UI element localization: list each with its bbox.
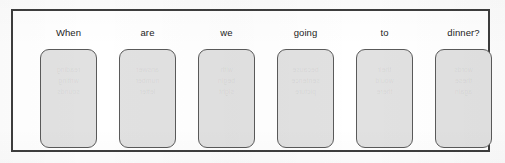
sentence-card-slot-2: are answer number letter [119, 25, 176, 149]
card-ghost-text-2: answer number letter [122, 64, 173, 141]
worksheet-frame: When reading writing sounds are answer n… [11, 9, 490, 152]
sentence-card-6[interactable]: words these again [435, 49, 492, 148]
sentence-card-1[interactable]: reading writing sounds [40, 49, 97, 148]
sentence-card-slot-3: we with begin sight [198, 25, 255, 149]
card-ghost-text-5: their would there [359, 64, 410, 141]
sentence-card-5[interactable]: their would there [356, 49, 413, 148]
card-label-5: to [348, 25, 421, 41]
card-label-1: When [32, 25, 105, 41]
sentence-card-slot-6: dinner? words these again [435, 25, 492, 149]
card-label-3: we [190, 25, 263, 41]
card-ghost-text-3: with begin sight [201, 64, 252, 141]
sentence-card-slot-4: going because sentence picture [277, 25, 334, 149]
sentence-card-2[interactable]: answer number letter [119, 49, 176, 148]
card-label-4: going [269, 25, 342, 41]
sentence-card-row: When reading writing sounds are answer n… [40, 25, 491, 149]
card-ghost-text-4: because sentence picture [280, 64, 331, 141]
worksheet-canvas: When reading writing sounds are answer n… [0, 0, 505, 163]
card-label-2: are [111, 25, 184, 41]
card-ghost-text-1: reading writing sounds [43, 64, 94, 141]
sentence-card-3[interactable]: with begin sight [198, 49, 255, 148]
sentence-card-slot-1: When reading writing sounds [40, 25, 97, 149]
card-label-6: dinner? [427, 25, 500, 41]
card-ghost-text-6: words these again [438, 64, 489, 141]
sentence-card-slot-5: to their would there [356, 25, 413, 149]
sentence-card-4[interactable]: because sentence picture [277, 49, 334, 148]
